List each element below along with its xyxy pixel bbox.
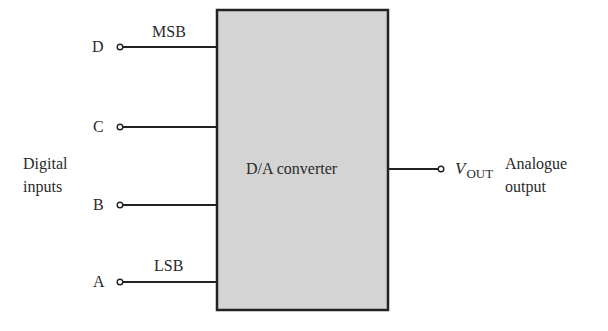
digital-inputs-label-line2: inputs bbox=[23, 178, 62, 196]
converter-label: D/A converter bbox=[246, 160, 337, 178]
input-label-b: B bbox=[93, 196, 104, 214]
lsb-label: LSB bbox=[154, 257, 183, 275]
terminal-a-icon bbox=[117, 279, 123, 285]
analogue-output-label-line1: Analogue bbox=[505, 155, 567, 173]
analogue-output-label-line2: output bbox=[505, 178, 546, 196]
digital-inputs-label-line1: Digital bbox=[23, 155, 67, 173]
vout-subscript: OUT bbox=[466, 166, 493, 181]
input-label-a: A bbox=[93, 273, 105, 291]
vout-symbol: VOUT bbox=[455, 160, 493, 179]
terminal-c-icon bbox=[117, 124, 123, 130]
vout-v: V bbox=[455, 159, 465, 178]
msb-label: MSB bbox=[152, 23, 186, 41]
input-label-d: D bbox=[92, 38, 104, 56]
terminal-b-icon bbox=[117, 202, 123, 208]
terminal-d-icon bbox=[117, 44, 123, 50]
terminal-out-icon bbox=[438, 166, 444, 172]
input-label-c: C bbox=[93, 118, 104, 136]
